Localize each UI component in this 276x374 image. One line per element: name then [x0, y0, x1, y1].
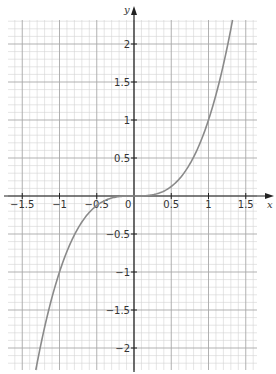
x-tick-label: 0.5	[163, 199, 179, 210]
y-tick-label: 2	[124, 39, 130, 50]
cubic-function-graph: x y 0 −1.5−1−0.50.511.5−2−1.5−1−0.50.511…	[0, 0, 276, 374]
y-tick-label: −1.5	[106, 305, 130, 316]
x-tick-label: 1.5	[238, 199, 254, 210]
y-axis-label: y	[123, 4, 130, 15]
y-tick-label: −0.5	[106, 229, 130, 240]
x-axis-label: x	[267, 199, 273, 210]
origin-label: 0	[125, 199, 131, 210]
x-tick-label: 1	[205, 199, 211, 210]
x-tick-label: −1	[52, 199, 67, 210]
y-tick-label: −1	[115, 267, 130, 278]
y-axis-arrow-icon	[131, 6, 137, 15]
y-tick-label: −2	[115, 343, 130, 354]
y-tick-label: 1	[124, 115, 130, 126]
y-tick-label: 1.5	[114, 77, 130, 88]
x-tick-label: −1.5	[10, 199, 34, 210]
minor-grid	[8, 20, 257, 370]
y-tick-label: 0.5	[114, 153, 130, 164]
